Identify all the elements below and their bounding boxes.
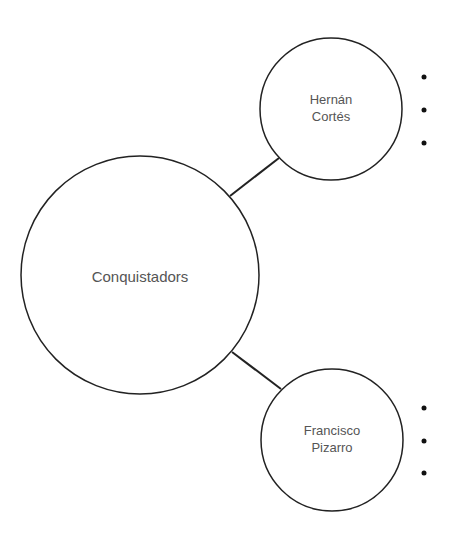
cortes-label-line1: Hernán [310, 92, 353, 109]
pizarro-bullet-3 [422, 471, 427, 476]
pizarro-node-label: Francisco Pizarro [304, 423, 360, 457]
pizarro-label-line2: Pizarro [304, 440, 360, 457]
cortes-bullet-2 [422, 108, 427, 113]
pizarro-bullet-1 [422, 406, 427, 411]
cortes-bullet-1 [422, 75, 427, 80]
pizarro-label-line1: Francisco [304, 423, 360, 440]
cortes-node-label: Hernán Cortés [310, 92, 353, 126]
center-node-label: Conquistadors [92, 267, 189, 287]
cortes-bullet-3 [422, 141, 427, 146]
cortes-label-line2: Cortés [310, 109, 353, 126]
diagram-canvas [0, 0, 451, 536]
connector-pizarro [232, 352, 281, 389]
pizarro-bullet-2 [422, 439, 427, 444]
connector-cortes [230, 158, 279, 196]
